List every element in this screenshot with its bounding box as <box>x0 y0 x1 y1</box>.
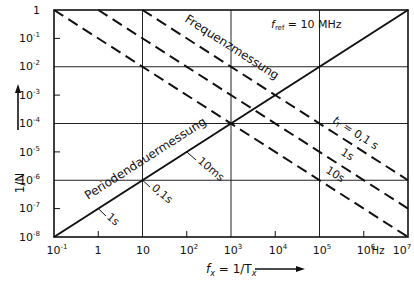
svg-text:105: 105 <box>313 243 331 257</box>
svg-text:10-3: 10-3 <box>19 88 40 102</box>
svg-text:10-1: 10-1 <box>19 31 40 45</box>
svg-text:104: 104 <box>269 243 288 257</box>
svg-text:103: 103 <box>224 243 242 257</box>
marker-label-10ms: 10ms <box>195 154 227 184</box>
period-measurement-label: Periodendauermessung <box>82 114 209 202</box>
tT-label: tT = 0,1 s <box>330 114 381 154</box>
frequency-measurement-label: Frequenzmessung <box>182 12 281 83</box>
x-axis-label: fx = 1/Tx <box>206 262 305 278</box>
svg-text:10-5: 10-5 <box>19 145 40 159</box>
svg-text:10-4: 10-4 <box>19 116 41 130</box>
marker-label-0.1s: 0,1s <box>149 181 175 206</box>
marker-label-1s: 1s <box>104 210 122 228</box>
chart: 1 10-1 10-2 10-3 10-4 10-5 10-6 10-7 10-… <box>0 0 414 283</box>
svg-text:107: 107 <box>393 243 411 257</box>
svg-text:10-2: 10-2 <box>19 59 40 73</box>
svg-text:fx = 1/Tx: fx = 1/Tx <box>206 262 257 278</box>
svg-text:10: 10 <box>136 244 150 257</box>
x-unit-label: Hz <box>372 245 385 256</box>
x-tick-labels: 10-1 1 10 102 103 104 105 106 107 <box>47 243 412 257</box>
label-1s: 1s <box>338 146 356 164</box>
svg-text:102: 102 <box>180 243 198 257</box>
fref-annotation: fref = 10 MHz <box>271 18 342 32</box>
y-tick-labels: 1 10-1 10-2 10-3 10-4 10-5 10-6 10-7 10-… <box>19 4 41 244</box>
svg-text:10-1: 10-1 <box>47 243 68 257</box>
svg-text:1/N: 1/N <box>13 173 27 194</box>
svg-text:10-7: 10-7 <box>19 201 40 215</box>
svg-text:1: 1 <box>95 244 102 257</box>
svg-text:10-8: 10-8 <box>19 230 40 244</box>
svg-text:1: 1 <box>33 4 40 17</box>
